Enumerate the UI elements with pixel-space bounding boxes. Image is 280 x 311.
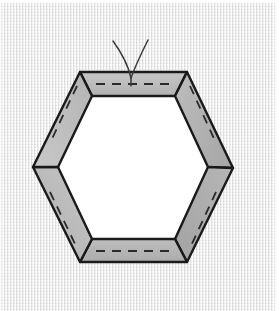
mitre-seam-right: [208, 167, 233, 168]
hexagon-illustration: [0, 0, 280, 311]
hexagon-diagram-svg: [0, 0, 280, 311]
